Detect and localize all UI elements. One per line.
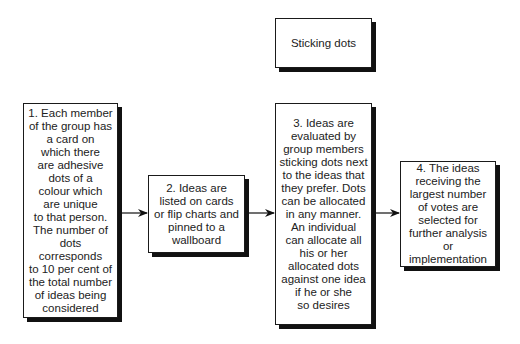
step-4-text: 4. The ideas receiving the largest numbe… (404, 162, 492, 266)
step-1-text: 1. Each member of the group has a card o… (27, 107, 114, 315)
step-1-box: 1. Each member of the group has a card o… (23, 103, 118, 318)
step-2-box: 2. Ideas are listed on cards or flip cha… (148, 175, 245, 253)
title-label: Sticking dots (291, 37, 356, 50)
step-2-text: 2. Ideas are listed on cards or flip cha… (154, 182, 239, 247)
step-3-box: 3. Ideas are evaluated by group members … (275, 103, 372, 325)
step-3-text: 3. Ideas are evaluated by group members … (279, 117, 367, 312)
title-box: Sticking dots (275, 18, 372, 68)
step-4-box: 4. The ideas receiving the largest numbe… (400, 161, 496, 267)
